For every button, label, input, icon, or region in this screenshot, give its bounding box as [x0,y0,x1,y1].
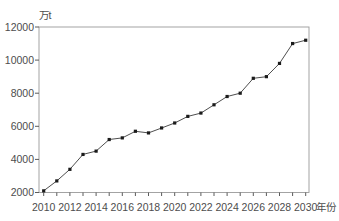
x-tick-label: 2024 [215,201,239,213]
x-tick-label: 2030 [294,201,318,213]
data-point [55,179,58,182]
chart-generated-content: 2000400060008000100001200020102012201420… [5,21,318,214]
line-chart: 2000400060008000100001200020102012201420… [0,0,339,221]
data-point [226,95,229,98]
data-point [278,62,281,65]
x-tick-label: 2026 [242,201,266,213]
data-point [68,168,71,171]
data-point [95,150,98,153]
data-point [134,130,137,133]
data-point [121,136,124,139]
data-point [199,111,202,114]
data-point [239,92,242,95]
data-point [160,126,163,129]
data-point [81,153,84,156]
line-chart-svg: 2000400060008000100001200020102012201420… [0,0,339,221]
x-tick-label: 2014 [84,201,108,213]
x-tick-label: 2016 [111,201,135,213]
data-point [173,121,176,124]
x-tick-label: 2012 [58,201,82,213]
y-tick-label: 8000 [11,87,35,99]
x-tick-label: 2010 [32,201,56,213]
y-tick-label: 12000 [5,21,34,33]
data-point [42,189,45,192]
data-point [304,39,307,42]
y-tick-label: 4000 [11,153,35,165]
x-tick-label: 2022 [189,201,213,213]
y-tick-label: 10000 [5,54,34,66]
x-tick-label: 2020 [163,201,187,213]
plot-area [39,27,309,193]
data-point [252,77,255,80]
data-point [186,115,189,118]
x-axis-title: 年份 [316,201,337,213]
x-tick-label: 2018 [137,201,161,213]
y-tick-label: 2000 [11,186,35,198]
x-tick-label: 2028 [268,201,292,213]
y-tick-label: 6000 [11,120,35,132]
data-point [212,103,215,106]
data-point [108,138,111,141]
data-point [265,75,268,78]
y-axis-title: 万t [39,9,52,21]
data-point [291,42,294,45]
data-point [147,131,150,134]
